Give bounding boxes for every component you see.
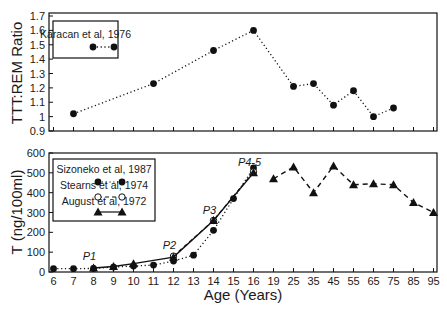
y-tick-label: 1.5 [30,39,45,51]
puberty-stage-annotation: P3 [203,204,217,216]
y-tick-label: 500 [27,167,45,179]
bottom-legend: Sizoneko et al, 1987Stearns et al, 1974A… [53,159,155,221]
x-tick-label: 85 [407,275,419,287]
top-panel-ttt-rem: 0.911.11.21.31.41.51.61.7TTT:REM RatioKa… [8,10,437,137]
series-karacan [70,27,397,120]
x-tick-label: 11 [148,275,159,287]
x-tick-label: 12 [167,275,179,287]
y-tick-label: 1.2 [30,82,45,94]
x-tick-label: 35 [307,275,319,287]
y-tick-label: 600 [27,147,45,159]
bottom-panel-testosterone: 0100200300400500600678910111213141516192… [8,147,440,287]
top-legend: Karacan et al, 1976 [40,21,131,58]
y-tick-label: 100 [27,246,45,258]
x-tick-label: 10 [127,275,139,287]
x-tick-label: 75 [387,275,399,287]
x-tick-label: 6 [50,275,56,287]
y-tick-label: 0.9 [30,125,45,137]
y-tick-label: 1.3 [30,68,45,80]
puberty-stage-annotation: P1 [83,250,96,262]
x-tick-label: 45 [327,275,339,287]
chart-figure: 0.911.11.21.31.41.51.61.7TTT:REM RatioKa… [0,0,447,312]
y-tick-label: 1 [39,111,45,123]
x-tick-label: 13 [187,275,199,287]
x-tick-label: 8 [90,275,96,287]
y-tick-label: 300 [27,207,45,219]
legend-label-august: August et al, 1972 [62,195,147,207]
legend-label-stearns: Stearns et al, 1974 [60,179,148,191]
y-tick-label: 1.7 [30,10,45,22]
x-tick-label: 7 [70,275,76,287]
puberty-stage-annotation: P4-5 [238,156,262,168]
x-tick-label: 9 [110,275,116,287]
x-axis-label: Age (Years) [204,286,283,303]
puberty-stage-annotation: P2 [163,239,176,251]
y-axis-label: T (ng/100ml) [8,170,25,255]
x-tick-label: 95 [427,275,439,287]
y-tick-label: 400 [27,187,45,199]
y-tick-label: 200 [27,226,45,238]
legend-label-sizoneko: Sizoneko et al, 1987 [56,163,151,175]
x-tick-label: 55 [347,275,359,287]
y-axis-label: TTT:REM Ratio [8,22,25,125]
x-tick-label: 25 [287,275,299,287]
x-tick-label: 65 [367,275,379,287]
y-tick-label: 1.1 [30,96,45,108]
y-tick-label: 1.4 [30,53,45,65]
legend-label-karacan: Karacan et al, 1976 [40,28,131,40]
y-tick-label: 0 [39,266,45,278]
series-adult [269,161,438,216]
